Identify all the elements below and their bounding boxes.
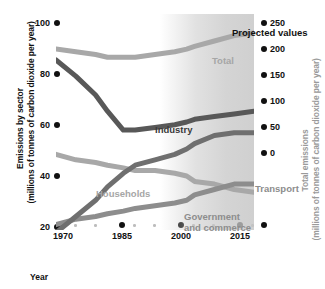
y-axis-right-title: Total emissions (millions of tonnes of c… xyxy=(300,81,321,241)
y-tick-right-50-label: 50 xyxy=(270,122,280,132)
x-tick-1985-label: 1985 xyxy=(112,231,132,241)
series-path-total xyxy=(56,33,254,57)
chart-figure: Emissions by sector (millions of tonnes … xyxy=(0,0,325,289)
series-label-industry: Industry xyxy=(155,124,192,135)
tick-dot-icon xyxy=(261,98,267,104)
y-tick-left-100-label: 100 xyxy=(28,18,50,28)
y-tick-right-50: 50 xyxy=(261,122,280,132)
projected-values-annotation: Projected values xyxy=(232,27,308,38)
y-tick-right-100: 100 xyxy=(261,96,285,106)
plot-area: Total Industry Households Transport Gove… xyxy=(56,14,254,230)
y-tick-left-80-label: 80 xyxy=(28,69,50,79)
y-tick-right-150-label: 150 xyxy=(270,70,285,80)
series-path-industry xyxy=(56,60,254,130)
y-tick-right-0-label: 0 xyxy=(270,148,275,158)
series-label-government-line2: and commerce xyxy=(184,222,251,233)
series-label-transport: Transport xyxy=(255,183,299,194)
y-tick-right-0: 0 xyxy=(261,148,275,158)
series-label-total: Total xyxy=(212,55,234,66)
series-lines xyxy=(56,14,254,230)
series-label-households: Households xyxy=(96,188,150,199)
y-axis-left-title-line1: Emissions by sector xyxy=(15,54,26,204)
y-axis-right-title-line2: (millions of tonnes of carbon dioxide pe… xyxy=(310,81,321,241)
y-tick-right-100-label: 100 xyxy=(270,96,285,106)
y-tick-left-60-label: 60 xyxy=(28,120,50,130)
y-tick-right-200-label: 200 xyxy=(270,44,285,54)
tick-dot-icon xyxy=(261,222,267,228)
x-axis-title: Year xyxy=(30,272,48,282)
series-label-government-line1: Government xyxy=(184,211,251,222)
x-axis-end-dot xyxy=(261,222,267,228)
y-tick-right-200: 200 xyxy=(261,44,285,54)
y-axis-right-title-line1: Total emissions xyxy=(300,81,311,241)
tick-dot-icon xyxy=(261,150,267,156)
series-label-government-and-commerce: Government and commerce xyxy=(184,211,251,233)
x-tick-1970-label: 1970 xyxy=(53,231,73,241)
y-tick-left-40-label: 40 xyxy=(28,171,50,181)
tick-dot-icon xyxy=(261,72,267,78)
tick-dot-icon xyxy=(261,46,267,52)
y-tick-left-20-label: 20 xyxy=(28,222,50,232)
tick-dot-icon xyxy=(261,124,267,130)
tick-dot-icon xyxy=(261,20,267,26)
y-tick-right-150: 150 xyxy=(261,70,285,80)
